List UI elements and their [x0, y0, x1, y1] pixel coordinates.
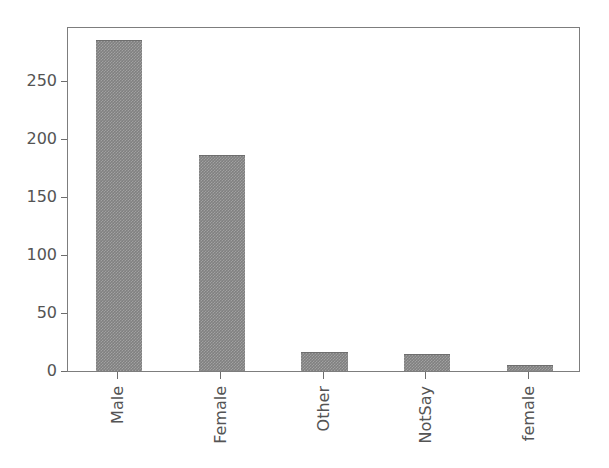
x-tick-label: Male [109, 386, 127, 424]
x-tick-mark [220, 372, 221, 379]
x-tick-label: NotSay [417, 386, 435, 443]
x-tick-label: Other [315, 386, 333, 431]
x-tick-label: Female [212, 386, 230, 444]
x-tick-mark [528, 372, 529, 379]
bar-chart-figure: 050100150200250 MaleFemaleOtherNotSayfem… [0, 0, 609, 468]
x-tick-label: female [520, 386, 538, 441]
x-tick-mark [323, 372, 324, 379]
x-tick-mark [425, 372, 426, 379]
x-axis: MaleFemaleOtherNotSayfemale [0, 0, 609, 468]
x-tick-mark [117, 372, 118, 379]
